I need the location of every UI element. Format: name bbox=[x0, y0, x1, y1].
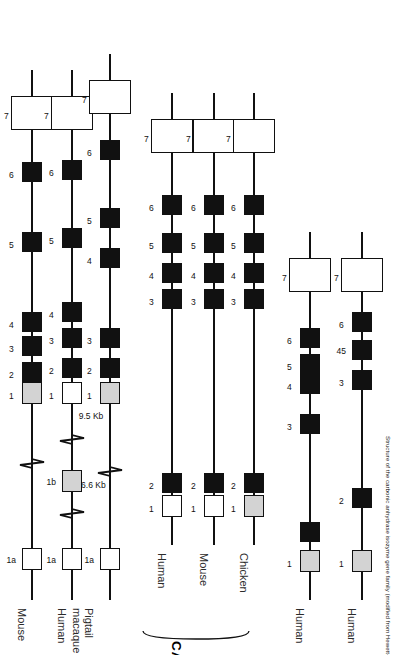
exon-number-label: 6 bbox=[9, 171, 14, 180]
exon-number-label: 7 bbox=[4, 112, 9, 121]
exon-number-label: 1 bbox=[287, 560, 292, 569]
gene-lane: 134567 bbox=[280, 232, 340, 600]
exon-box bbox=[300, 374, 320, 394]
exon-box bbox=[162, 289, 182, 309]
exon-box bbox=[300, 550, 320, 572]
gene-backbone-line bbox=[31, 70, 33, 600]
exon-number-label: 3 bbox=[287, 423, 292, 432]
figure-canvas: 1a1234567Mouse26.6 Kb9.5 Kb1a1b1234567Hu… bbox=[0, 0, 394, 655]
exon-number-label: 1 bbox=[149, 505, 154, 514]
exon-box bbox=[22, 162, 42, 182]
exon-box bbox=[62, 302, 82, 322]
exon-number-label: 1 bbox=[49, 392, 54, 401]
exon-number-label: 6 bbox=[149, 204, 154, 213]
exon-number-label: 4 bbox=[49, 311, 54, 320]
exon-number-label: 6 bbox=[231, 204, 236, 213]
exon-number-label: 6 bbox=[49, 169, 54, 178]
exon-number-label: 2 bbox=[191, 482, 196, 491]
gene-lane: 1234567 bbox=[332, 232, 392, 600]
exon-number-label: 4 bbox=[149, 272, 154, 281]
exon-box bbox=[100, 548, 120, 570]
exon-box bbox=[100, 382, 120, 404]
exon-box bbox=[22, 548, 42, 570]
exon-number-label: 1a bbox=[7, 556, 16, 565]
exon-number-label: 2 bbox=[231, 482, 236, 491]
exon-number-label: 7 bbox=[226, 135, 231, 144]
exon-box bbox=[233, 119, 275, 153]
exon-box bbox=[100, 208, 120, 228]
exon-box bbox=[244, 233, 264, 253]
exon-box bbox=[162, 495, 182, 517]
exon-box bbox=[162, 263, 182, 283]
exon-number-label: 2 bbox=[149, 482, 154, 491]
exon-box bbox=[352, 550, 372, 572]
exon-box bbox=[22, 312, 42, 332]
exon-number-label: 5 bbox=[87, 217, 92, 226]
exon-number-label: 2 bbox=[87, 367, 92, 376]
exon-box bbox=[244, 195, 264, 215]
figure-caption: Structure of the carbonic anhydrase isoz… bbox=[385, 436, 392, 655]
exon-number-label: 6 bbox=[287, 337, 292, 346]
exon-box bbox=[204, 289, 224, 309]
species-label-line: macaque bbox=[71, 608, 83, 653]
exon-box bbox=[22, 362, 42, 382]
exon-number-label: 1 bbox=[87, 392, 92, 401]
exon-box bbox=[352, 340, 372, 360]
exon-number-label: 1 bbox=[339, 560, 344, 569]
exon-number-label: 6 bbox=[191, 204, 196, 213]
exon-number-label: 2 bbox=[9, 371, 14, 380]
exon-box bbox=[352, 370, 372, 390]
exon-number-label: 7 bbox=[282, 274, 287, 283]
exon-number-label: 5 bbox=[9, 241, 14, 250]
exon-number-label: 4 bbox=[87, 257, 92, 266]
exon-box bbox=[244, 473, 264, 493]
exon-number-label: 5 bbox=[231, 242, 236, 251]
exon-box bbox=[352, 312, 372, 332]
exon-box bbox=[100, 358, 120, 378]
exon-box bbox=[204, 495, 224, 517]
exon-box bbox=[62, 382, 82, 404]
exon-box bbox=[244, 495, 264, 517]
species-label: Human bbox=[156, 553, 168, 588]
exon-box bbox=[341, 258, 383, 292]
species-label-line: Pigtail bbox=[83, 608, 95, 653]
gene-backbone-line bbox=[109, 54, 111, 600]
group-brace bbox=[142, 627, 250, 637]
species-label: Mouse bbox=[198, 553, 210, 586]
exon-number-label: 4 bbox=[231, 272, 236, 281]
exon-number-label: 3 bbox=[9, 345, 14, 354]
exon-number-label: 5 bbox=[149, 242, 154, 251]
exon-number-label: 1 bbox=[191, 505, 196, 514]
exon-box bbox=[244, 289, 264, 309]
exon-number-label: 3 bbox=[49, 337, 54, 346]
exon-box bbox=[62, 328, 82, 348]
exon-box bbox=[244, 263, 264, 283]
exon-box bbox=[62, 228, 82, 248]
species-label: Mouse bbox=[16, 608, 28, 641]
exon-box bbox=[300, 354, 320, 374]
exon-number-label: 3 bbox=[149, 298, 154, 307]
exon-box bbox=[352, 488, 372, 508]
exon-number-label: 6 bbox=[87, 149, 92, 158]
exon-box bbox=[300, 328, 320, 348]
exon-number-label: 1 bbox=[9, 392, 14, 401]
exon-number-label: 3 bbox=[339, 379, 344, 388]
exon-box bbox=[300, 414, 320, 434]
exon-number-label: 2 bbox=[49, 367, 54, 376]
exon-number-label: 7 bbox=[186, 135, 191, 144]
exon-box bbox=[62, 160, 82, 180]
exon-number-label: 6 bbox=[339, 321, 344, 330]
exon-box bbox=[204, 263, 224, 283]
exon-box bbox=[204, 473, 224, 493]
species-label: Pigtailmacaque bbox=[71, 608, 94, 653]
exon-number-label: 4 bbox=[9, 321, 14, 330]
exon-number-label: 5 bbox=[191, 242, 196, 251]
exon-number-label: 3 bbox=[87, 337, 92, 346]
gene-lane: 1a1234567 bbox=[80, 54, 140, 600]
exon-box bbox=[62, 358, 82, 378]
species-label: Human bbox=[56, 608, 68, 643]
exon-number-label: 4 bbox=[191, 272, 196, 281]
exon-number-label: 5 bbox=[287, 363, 292, 372]
species-label: Human bbox=[294, 608, 306, 643]
exon-box bbox=[22, 336, 42, 356]
